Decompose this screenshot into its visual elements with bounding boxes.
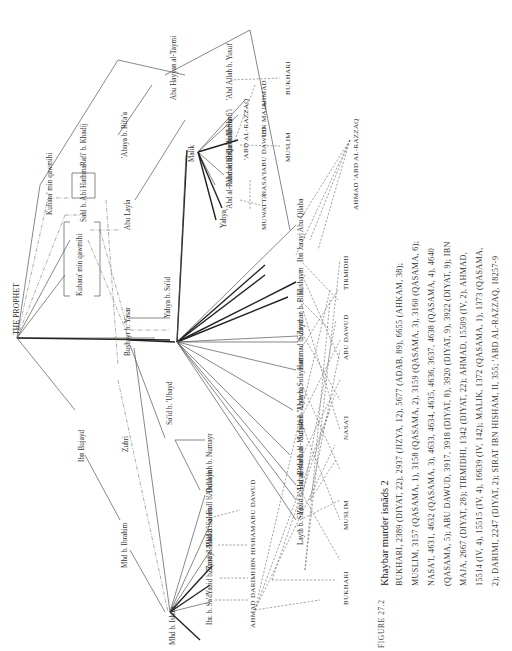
node-hushaym: Hushaym: [297, 267, 305, 295]
node-ibr-sad: Ibr. b. Sa'd: [206, 594, 214, 625]
node-yahya-malik: Yahya: [220, 209, 228, 228]
coll-abu-dawud-2: ABU DAWUD: [342, 315, 350, 361]
node-mhd-ishaq: Mhd b. Ishaq: [169, 606, 177, 645]
figure-label: FIGURE 27.2: [377, 599, 386, 648]
node-abdallah-yusuf: 'Abd Allah b. Yusuf: [226, 43, 234, 100]
coll-ahmad-1: AHMAD: [249, 600, 257, 628]
coll-nasai-1: NASA'I: [342, 415, 350, 440]
caption-line-2: MUSLIM, 3157 (QASAMA, 1), 3158 (QASAMA, …: [411, 241, 420, 586]
node-malik: Malik: [188, 144, 196, 162]
isnad-diagram: THE PROPHET Kubara' min qawmihi Kubara' …: [0, 0, 512, 651]
coll-bukhari-2: BUKHARI: [284, 61, 292, 95]
coll-bukhari-1: BUKHARI: [342, 571, 350, 605]
node-abdallah-numayr: 'Abd Allah b. Numayr: [206, 433, 214, 497]
coll-tirmidhi: TIRMIDHI: [342, 255, 350, 290]
node-ibn-jurayj: Ibn Jurayj: [297, 233, 305, 262]
caption-line-7: 2); DARIMI, 2247 (DIYAT, 2); SIRAT IBN H…: [491, 256, 500, 586]
coll-muslim-1: MUSLIM: [342, 500, 350, 530]
figure-title: Khaybar murder isnāds 2: [379, 480, 390, 586]
node-bushayr: Bushayr b. Yasar: [124, 307, 132, 356]
node-shafii: al-Shafi'i: [226, 109, 234, 135]
node-sulayman-bilal: Sulayman b. Bilal: [297, 288, 305, 340]
coll-muslim-2: MUSLIM: [284, 132, 292, 162]
node-ibn-bujayd: Ibn Bujayd: [78, 429, 86, 462]
caption-line-1: BUKHARI, 2389 (DIYAT, 22), 2937 (JIZYA, …: [395, 263, 404, 586]
coll-ahmad-2: AHMAD: [260, 80, 268, 108]
node-said-ubayd: Sa'id b. 'Ubayd: [166, 381, 174, 425]
caption-line-6: 15514 (IV, 4), 15515 (IV, 4), 16639 (IV,…: [475, 247, 484, 586]
coll-ibn-hisham: IBN HISHAM: [249, 525, 257, 570]
node-rafi: Rafi' b. Khadij: [80, 124, 88, 166]
caption-line-4: (QASAMA, 5); ABU DAWUD, 3917, 3918 (DIYA…: [443, 241, 452, 586]
node-kubara-2: Kubara' min qawmihi: [46, 153, 54, 215]
node-abu-hayyan: Abu Hayyan al-Taymi: [170, 36, 178, 100]
node-abu-qilaba: Abu Qilaba: [297, 198, 305, 232]
figure-caption: FIGURE 27.2 Khaybar murder isnāds 2 BUKH…: [377, 241, 500, 648]
coll-ahmad-abd-al-razzaq: AHMAD 'ABD AL-RAZZAQ: [352, 118, 360, 210]
coll-abd-al-razzaq: 'ABD AL-RAZZAQ: [242, 98, 250, 160]
node-yahya-said: Yahya b. Sa'id: [164, 276, 172, 318]
node-kubara-1: Kubara' min qawmihi: [76, 234, 84, 296]
node-the-prophet: THE PROPHET: [12, 283, 21, 335]
coll-nasai-2: NASA'I: [260, 171, 268, 196]
node-abaya: 'Abaya b. Rifa'a: [121, 111, 129, 158]
node-abu-layla: Abu Layla: [124, 199, 132, 230]
node-mhd-ibrahim: Mhd b. Ibrahim: [121, 522, 129, 568]
coll-muwatta: MUWATTA': [260, 192, 268, 230]
caption-line-3: NASA'I, 4631, 4632 (QASAMA, 3), 4633, 46…: [427, 248, 436, 586]
node-zuhri: Zuhri: [122, 436, 130, 452]
rotated-book-page: THE PROPHET Kubara' min qawmihi Kubara' …: [0, 0, 512, 651]
coll-darimi: DARIMI: [249, 570, 257, 598]
caption-line-5: MAJA, 2667 (DIYAT, 28); TIRMIDHI, 1342 (…: [459, 252, 468, 586]
node-sahl: Sahl b. Abi Hathma: [80, 164, 88, 222]
coll-abu-dawud-1: ABU DAWUD: [249, 480, 257, 526]
